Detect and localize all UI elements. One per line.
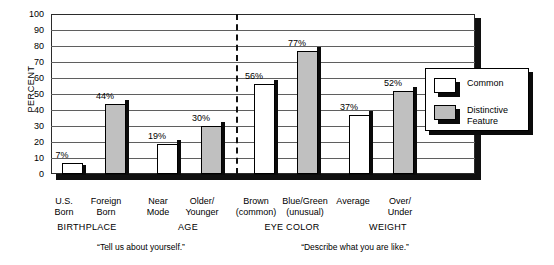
x-tick-line1: Over/ xyxy=(389,196,411,206)
x-tick-line1: Average xyxy=(336,196,369,206)
y-tick-label-80: 80 xyxy=(14,42,44,51)
chart-figure: PERCENT 100 90 80 70 60 50 40 30 20 10 0 xyxy=(0,0,554,265)
x-tick-line2: Under xyxy=(388,207,413,217)
x-tick-line1: Brown xyxy=(243,196,269,206)
bar-over-under xyxy=(393,91,414,174)
section-divider xyxy=(236,14,238,174)
legend-label-line1: Distinctive xyxy=(467,105,508,115)
grid-line-70 xyxy=(51,62,475,63)
legend-swatch-shadow xyxy=(438,82,460,97)
x-tick-line2: (unusual) xyxy=(286,207,324,217)
bar-us-born xyxy=(62,163,83,174)
y-tick-label-20: 20 xyxy=(14,138,44,147)
x-tick-label-over-under: Over/ Under xyxy=(376,196,424,218)
legend-label-common: Common xyxy=(467,78,504,89)
y-tick-label-90: 90 xyxy=(14,26,44,35)
bar-brown xyxy=(254,84,275,174)
y-tick-label-100: 100 xyxy=(14,10,44,19)
legend-label-distinctive-feature: Distinctive Feature xyxy=(467,105,508,126)
grid-line-80 xyxy=(51,46,475,47)
data-label-near-mode: 19% xyxy=(137,131,177,141)
group-label-eye-color: EYE COLOR xyxy=(246,222,338,232)
data-label-over-under: 52% xyxy=(373,78,413,88)
legend-item-common[interactable]: Common xyxy=(434,78,504,93)
bar-foreign-born xyxy=(105,104,126,174)
group-label-age: AGE xyxy=(150,222,226,232)
plot-floor-shadow xyxy=(56,174,481,180)
chart-legend: Common Distinctive Feature xyxy=(425,68,529,131)
grid-line-90 xyxy=(51,30,475,31)
data-label-us-born: 7% xyxy=(42,150,82,160)
group-label-birthplace: BIRTHPLACE xyxy=(44,222,130,232)
legend-swatch-shadow xyxy=(438,109,460,124)
x-tick-label-older-younger: Older/ Younger xyxy=(178,196,226,218)
legend-swatch-distinctive-icon xyxy=(434,105,456,120)
x-tick-line1: Near xyxy=(148,196,168,206)
bar-older-younger xyxy=(201,126,222,174)
data-label-blue-green: 77% xyxy=(277,38,317,48)
caption-right: “Describe what you are like.” xyxy=(280,242,430,252)
x-tick-line2: Born xyxy=(54,207,73,217)
group-label-weight: WEIGHT xyxy=(350,222,426,232)
x-tick-label-foreign-born: Foreign Born xyxy=(83,196,129,218)
caption-left: “Tell us about yourself.” xyxy=(76,242,206,252)
x-tick-line1: U.S. xyxy=(55,196,73,206)
y-tick-label-60: 60 xyxy=(14,74,44,83)
x-tick-label-us-born: U.S. Born xyxy=(42,196,86,218)
legend-item-distinctive-feature[interactable]: Distinctive Feature xyxy=(434,105,508,126)
y-tick-label-40: 40 xyxy=(14,106,44,115)
y-tick-label-0: 0 xyxy=(14,170,44,179)
legend-swatch-common-icon xyxy=(434,78,456,93)
x-tick-line2: Younger xyxy=(185,207,218,217)
x-tick-label-near-mode: Near Mode xyxy=(136,196,180,218)
x-tick-line2: (common) xyxy=(236,207,277,217)
data-label-brown: 56% xyxy=(234,71,274,81)
bar-average xyxy=(349,115,370,174)
data-label-older-younger: 30% xyxy=(181,113,221,123)
x-tick-label-average: Average xyxy=(328,196,378,207)
x-tick-line2: Born xyxy=(96,207,115,217)
x-tick-line2: Mode xyxy=(147,207,170,217)
y-tick-label-50: 50 xyxy=(14,90,44,99)
x-tick-line1: Foreign xyxy=(91,196,122,206)
bar-near-mode xyxy=(157,144,178,174)
y-tick-label-10: 10 xyxy=(14,154,44,163)
data-label-foreign-born: 44% xyxy=(85,91,125,101)
x-tick-line1: Blue/Green xyxy=(282,196,328,206)
y-tick-label-70: 70 xyxy=(14,58,44,67)
y-tick-label-30: 30 xyxy=(14,122,44,131)
bar-blue-green xyxy=(297,51,318,174)
x-tick-line1: Older/ xyxy=(190,196,215,206)
data-label-average: 37% xyxy=(329,102,369,112)
legend-label-line2: Feature xyxy=(467,116,498,126)
